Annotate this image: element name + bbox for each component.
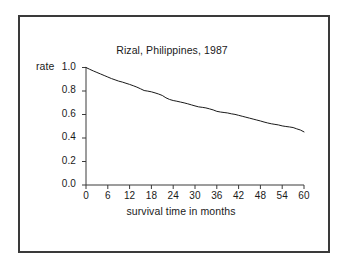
x-tick-label: 0: [76, 190, 96, 201]
x-tick-label: 36: [207, 190, 227, 201]
x-axis-label: survival time in months: [0, 205, 344, 217]
x-tick-label: 42: [229, 190, 249, 201]
y-tick-label: 0.4: [50, 131, 76, 142]
x-tick-label: 48: [250, 190, 270, 201]
y-tick-label: 0.6: [50, 108, 76, 119]
x-tick-label: 24: [163, 190, 183, 201]
survival-curve-line: [86, 68, 304, 132]
x-tick-label: 60: [294, 190, 314, 201]
x-tick-label: 18: [141, 190, 161, 201]
x-tick-label: 30: [185, 190, 205, 201]
x-tick-marks: [86, 185, 304, 189]
y-tick-label: 0.8: [50, 84, 76, 95]
x-tick-label: 54: [272, 190, 292, 201]
x-tick-label: 6: [98, 190, 118, 201]
figure-canvas: Rizal, Philippines, 1987 rate survival t…: [0, 0, 344, 266]
y-tick-marks: [82, 68, 86, 186]
chart-title: Rizal, Philippines, 1987: [0, 44, 344, 56]
x-tick-label: 12: [120, 190, 140, 201]
y-tick-label: 1.0: [50, 61, 76, 72]
y-tick-label: 0.2: [50, 155, 76, 166]
y-tick-label: 0.0: [50, 178, 76, 189]
axes-group: [86, 67, 304, 185]
